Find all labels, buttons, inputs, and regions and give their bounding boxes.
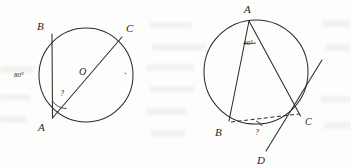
- right-label-unknown-angle: ?: [255, 128, 259, 137]
- right-chord-ab: [229, 21, 249, 121]
- left-label-point-c: C: [126, 22, 134, 34]
- right-label-point-d: D: [256, 154, 265, 166]
- left-label-point-b: B: [37, 20, 44, 32]
- left-diameter-ac: [53, 37, 123, 118]
- left-label-arc-measure: 80°: [14, 71, 24, 79]
- right-tangent-line-cd: [266, 60, 322, 151]
- left-label-unknown-angle: ?: [60, 89, 64, 98]
- left-ink-speck: [125, 73, 126, 74]
- left-label-center-o: O: [79, 66, 86, 77]
- left-label-point-a: A: [37, 121, 45, 133]
- geometry-figures: B C A O 80° ? A B C D 40° ?: [0, 0, 351, 167]
- right-label-point-a: A: [243, 3, 251, 15]
- figure-page: B C A O 80° ? A B C D 40° ?: [0, 0, 351, 167]
- right-chord-bc-dashed: [231, 114, 299, 122]
- right-label-point-c: C: [305, 116, 312, 127]
- left-chord-ab: [52, 34, 53, 118]
- right-label-inscribed-angle: 40°: [243, 39, 253, 47]
- right-label-point-b: B: [215, 126, 222, 138]
